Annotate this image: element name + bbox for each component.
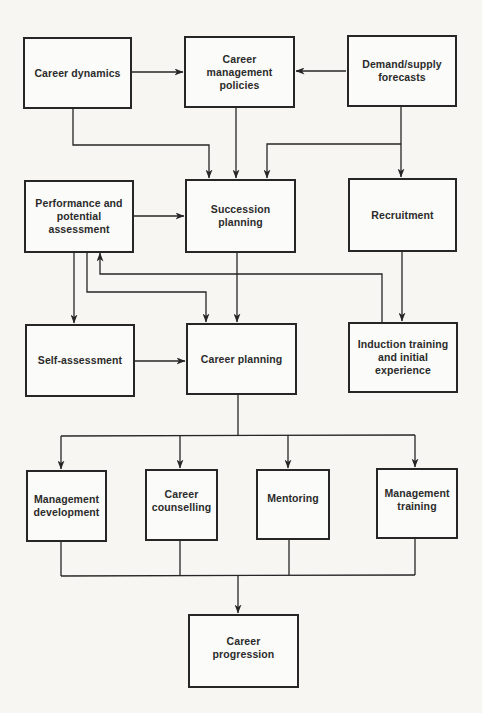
node-recruitment: Recruitment	[348, 178, 457, 252]
career-management-flowchart: Career dynamics Career management polici…	[0, 0, 482, 713]
node-mentoring: Mentoring	[256, 469, 330, 540]
node-career-dynamics: Career dynamics	[23, 37, 132, 109]
node-label: Succession planning	[190, 203, 291, 229]
node-career-planning: Career planning	[186, 323, 297, 395]
node-label: Management training	[384, 487, 449, 513]
node-label: Demand/supply forecasts	[362, 58, 441, 84]
node-label: Career counselling	[152, 488, 211, 514]
node-label: Self-assessment	[38, 354, 122, 367]
node-career-progression: Career progression	[188, 614, 299, 688]
node-demand-supply-forecasts: Demand/supply forecasts	[347, 35, 457, 107]
node-induction-training: Induction training and initial experienc…	[348, 322, 458, 393]
node-career-management-policies: Career management policies	[184, 36, 295, 108]
node-succession-planning: Succession planning	[185, 179, 296, 253]
node-label: Career progression	[213, 635, 275, 661]
node-performance-potential-assessment: Performance and potential assessment	[24, 180, 134, 253]
node-label: Performance and potential assessment	[35, 197, 122, 236]
node-label: Management development	[34, 493, 100, 519]
node-label: Induction training and initial experienc…	[358, 338, 448, 377]
node-label: Career dynamics	[34, 67, 120, 80]
node-management-training: Management training	[376, 468, 458, 539]
node-label: Mentoring	[267, 492, 319, 505]
node-label: Recruitment	[371, 209, 433, 222]
node-label: Career planning	[201, 353, 282, 366]
node-career-counselling: Career counselling	[145, 469, 218, 541]
node-management-development: Management development	[26, 470, 107, 542]
node-label: Career management policies	[189, 53, 290, 92]
node-self-assessment: Self-assessment	[25, 324, 135, 397]
